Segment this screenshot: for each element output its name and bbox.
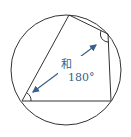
cyclic-quadrilateral-diagram: 和 180° [0,0,131,137]
label-180-degrees: 180° [68,71,95,84]
angle-mark-lower-left [27,93,31,101]
label-sum: 和 [61,58,72,71]
